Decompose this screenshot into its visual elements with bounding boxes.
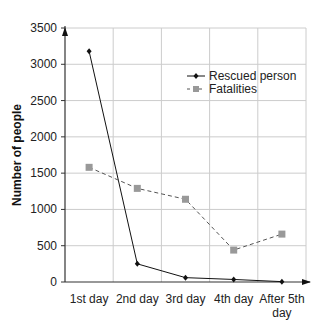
x-tick-labels: 1st day2nd day3rd day4th dayAfter 5thday: [70, 292, 305, 320]
x-tick-label: 4th day: [214, 292, 253, 306]
square-marker-icon: [134, 185, 141, 192]
square-marker-icon: [86, 164, 93, 171]
x-tick-label: After 5th: [259, 292, 304, 306]
legend: Rescued personFatalities: [187, 69, 296, 96]
y-tick-label: 500: [37, 239, 57, 253]
y-tick-label: 0: [50, 275, 57, 289]
diamond-marker-icon: [183, 275, 188, 281]
x-tick-label: 1st day: [70, 292, 109, 306]
square-marker-icon: [182, 196, 189, 203]
x-tick-label: 2nd day: [116, 292, 159, 306]
diamond-marker-icon: [135, 261, 140, 267]
line-chart: 0500100015002000250030003500 1st day2nd …: [0, 0, 319, 333]
y-tick-label: 1500: [30, 166, 57, 180]
square-marker-icon: [278, 231, 285, 238]
series-line: [89, 167, 282, 250]
legend-label: Fatalities: [209, 82, 257, 96]
legend-label: Rescued person: [209, 69, 296, 83]
x-tick-label: day: [272, 306, 291, 320]
legend-diamond-marker-icon: [194, 73, 199, 79]
y-axis-label: Number of people: [10, 104, 24, 206]
diamond-marker-icon: [279, 279, 284, 285]
legend-square-marker-icon: [193, 86, 199, 92]
y-tick-label: 2000: [30, 130, 57, 144]
series-fatalities: [86, 164, 286, 254]
y-tick-labels: 0500100015002000250030003500: [30, 21, 57, 289]
grid-lines: [65, 28, 306, 282]
x-tick-label: 3rd day: [165, 292, 205, 306]
y-tick-label: 1000: [30, 202, 57, 216]
square-marker-icon: [230, 247, 237, 254]
diamond-marker-icon: [87, 48, 92, 54]
y-tick-label: 3500: [30, 21, 57, 35]
y-tick-label: 3000: [30, 57, 57, 71]
y-tick-label: 2500: [30, 94, 57, 108]
